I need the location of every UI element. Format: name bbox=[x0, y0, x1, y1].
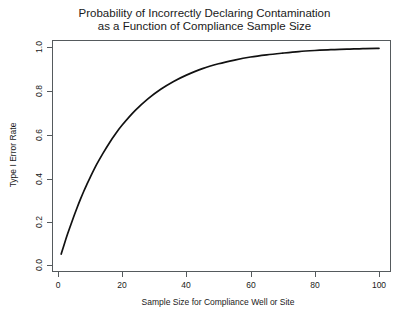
y-tick-label-1.0: 1.0 bbox=[34, 41, 44, 53]
x-tick-label-80: 80 bbox=[310, 280, 320, 290]
x-tick-label-0: 0 bbox=[56, 280, 61, 290]
chart-title-line-2: as a Function of Compliance Sample Size bbox=[98, 20, 312, 32]
y-tick-label-0.4: 0.4 bbox=[34, 173, 44, 185]
x-tick-label-60: 60 bbox=[246, 280, 256, 290]
y-axis-title: Type I Error Rate bbox=[8, 122, 18, 187]
y-tick-label-0.6: 0.6 bbox=[34, 129, 44, 141]
y-tick-label-0.8: 0.8 bbox=[34, 85, 44, 97]
x-tick-label-40: 40 bbox=[181, 280, 191, 290]
y-tick-label-0.2: 0.2 bbox=[34, 216, 44, 228]
chart-title-line-1: Probability of Incorrectly Declaring Con… bbox=[79, 7, 331, 19]
x-tick-label-100: 100 bbox=[372, 280, 386, 290]
x-tick-label-20: 20 bbox=[117, 280, 127, 290]
x-axis-title: Sample Size for Compliance Well or Site bbox=[142, 297, 295, 307]
chart-figure: Probability of Incorrectly Declaring Con… bbox=[0, 0, 409, 320]
chart-svg: Probability of Incorrectly Declaring Con… bbox=[0, 0, 409, 320]
chart-background bbox=[0, 0, 409, 320]
y-tick-label-0.0: 0.0 bbox=[34, 259, 44, 271]
